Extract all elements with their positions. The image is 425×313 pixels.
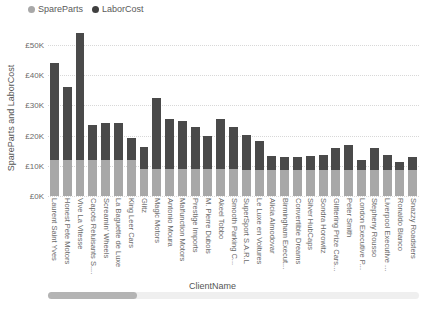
bar-column[interactable] — [138, 30, 151, 196]
bar-stack[interactable] — [267, 156, 276, 196]
bar-column[interactable] — [125, 30, 138, 196]
bar-segment-laborcost[interactable] — [370, 148, 379, 171]
bar-segment-laborcost[interactable] — [191, 127, 200, 170]
x-axis-tick[interactable]: Honest Pete Motors — [61, 198, 74, 280]
x-axis-tick[interactable]: Antonio Moura — [163, 198, 176, 280]
x-axis-tick[interactable]: Malfunction Motors — [176, 198, 189, 280]
bar-stack[interactable] — [242, 135, 251, 196]
x-axis-tick[interactable]: London Executive P... — [355, 198, 368, 280]
legend-item-spareparts[interactable]: SpareParts — [28, 5, 83, 14]
bar-segment-spareparts[interactable] — [395, 170, 404, 196]
legend-item-laborcost[interactable]: LaborCost — [92, 5, 144, 14]
bar-stack[interactable] — [344, 145, 353, 196]
bar-segment-spareparts[interactable] — [242, 170, 251, 196]
bar-column[interactable] — [304, 30, 317, 196]
bar-segment-laborcost[interactable] — [344, 145, 353, 170]
x-axis-tick[interactable]: Prestige Imports — [189, 198, 202, 280]
horizontal-scrollbar-thumb[interactable] — [48, 292, 137, 299]
bar-segment-laborcost[interactable] — [114, 123, 123, 160]
bar-column[interactable] — [381, 30, 394, 196]
bar-stack[interactable] — [88, 125, 97, 196]
bar-segment-laborcost[interactable] — [127, 138, 136, 160]
bar-segment-spareparts[interactable] — [383, 170, 392, 196]
bar-segment-spareparts[interactable] — [178, 169, 187, 196]
x-axis-tick[interactable]: Stepheny Rousso — [368, 198, 381, 280]
bar-segment-laborcost[interactable] — [357, 160, 366, 171]
bar-segment-spareparts[interactable] — [267, 170, 276, 196]
bar-column[interactable] — [99, 30, 112, 196]
bar-segment-laborcost[interactable] — [178, 121, 187, 170]
bar-segment-laborcost[interactable] — [165, 119, 174, 169]
x-axis-tick[interactable]: Screamin' Wheels — [99, 198, 112, 280]
bar-segment-laborcost[interactable] — [76, 33, 85, 160]
bar-segment-spareparts[interactable] — [216, 169, 225, 196]
bar-segment-spareparts[interactable] — [140, 169, 149, 196]
bar-segment-spareparts[interactable] — [293, 170, 302, 196]
bar-column[interactable] — [253, 30, 266, 196]
bar-column[interactable] — [406, 30, 419, 196]
bar-segment-spareparts[interactable] — [306, 170, 315, 196]
bar-column[interactable] — [61, 30, 74, 196]
bar-segment-laborcost[interactable] — [331, 148, 340, 170]
bar-column[interactable] — [355, 30, 368, 196]
bar-segment-laborcost[interactable] — [152, 98, 161, 170]
bar-segment-laborcost[interactable] — [255, 141, 264, 170]
bar-segment-laborcost[interactable] — [267, 156, 276, 171]
bar-stack[interactable] — [127, 138, 136, 196]
bar-stack[interactable] — [395, 162, 404, 196]
x-axis-tick[interactable]: Vive La Vitesse — [74, 198, 87, 280]
bar-column[interactable] — [394, 30, 407, 196]
bar-column[interactable] — [74, 30, 87, 196]
x-axis-tick[interactable]: Alicia Almodovar — [266, 198, 279, 280]
bar-segment-laborcost[interactable] — [88, 125, 97, 160]
bar-segment-laborcost[interactable] — [63, 87, 72, 160]
x-axis-tick[interactable]: Silver HubCaps — [304, 198, 317, 280]
bar-stack[interactable] — [101, 123, 110, 196]
x-axis-tick[interactable]: Laurent Saint Yves — [48, 198, 61, 280]
bar-segment-laborcost[interactable] — [383, 155, 392, 170]
bar-column[interactable] — [266, 30, 279, 196]
x-axis-tick[interactable]: Magic Motors — [150, 198, 163, 280]
x-axis-tick[interactable]: Snazzy Roadsters — [406, 198, 419, 280]
bar-stack[interactable] — [255, 141, 264, 196]
x-axis-tick[interactable]: King Leer Cars — [125, 198, 138, 280]
bar-segment-spareparts[interactable] — [165, 169, 174, 196]
bar-stack[interactable] — [293, 157, 302, 196]
x-axis-tick[interactable]: Capots Reluisants S.... — [86, 198, 99, 280]
x-axis-tick[interactable]: Ronaldo Bianco — [394, 198, 407, 280]
x-axis-tick[interactable]: Akeel Tobbo — [214, 198, 227, 280]
bar-segment-spareparts[interactable] — [370, 170, 379, 196]
horizontal-scrollbar[interactable] — [48, 292, 419, 299]
bar-segment-laborcost[interactable] — [140, 147, 149, 169]
bar-column[interactable] — [278, 30, 291, 196]
bar-column[interactable] — [342, 30, 355, 196]
x-axis-tick[interactable]: M. Pierre Dubois — [202, 198, 215, 280]
bar-column[interactable] — [291, 30, 304, 196]
bar-stack[interactable] — [357, 160, 366, 196]
bar-segment-spareparts[interactable] — [76, 160, 85, 196]
bar-segment-laborcost[interactable] — [242, 135, 251, 170]
bar-column[interactable] — [330, 30, 343, 196]
bar-stack[interactable] — [165, 119, 174, 196]
bar-column[interactable] — [368, 30, 381, 196]
bar-stack[interactable] — [203, 136, 212, 196]
x-axis-tick[interactable]: La Baguette de Luxe — [112, 198, 125, 280]
x-axis-tick[interactable]: Le Luxe en Voitures — [253, 198, 266, 280]
bar-stack[interactable] — [76, 33, 85, 196]
bar-stack[interactable] — [331, 148, 340, 196]
bar-segment-spareparts[interactable] — [331, 170, 340, 196]
bar-segment-spareparts[interactable] — [152, 169, 161, 196]
bar-segment-spareparts[interactable] — [101, 160, 110, 196]
bar-column[interactable] — [176, 30, 189, 196]
bar-stack[interactable] — [191, 127, 200, 196]
x-axis-tick[interactable]: Peter Smith — [342, 198, 355, 280]
bar-segment-spareparts[interactable] — [203, 169, 212, 196]
bar-column[interactable] — [227, 30, 240, 196]
bar-stack[interactable] — [50, 63, 59, 196]
x-axis-tick[interactable]: Liverpool Executive ... — [381, 198, 394, 280]
x-axis-tick[interactable]: Convertible Dreams — [291, 198, 304, 280]
bar-column[interactable] — [150, 30, 163, 196]
bar-segment-spareparts[interactable] — [191, 169, 200, 196]
bar-column[interactable] — [214, 30, 227, 196]
bar-segment-spareparts[interactable] — [344, 170, 353, 196]
